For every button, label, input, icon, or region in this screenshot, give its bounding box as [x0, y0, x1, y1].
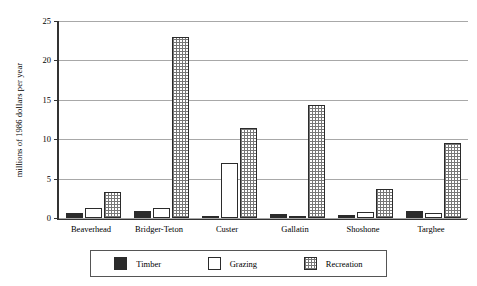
legend-swatch-grazing — [208, 257, 221, 270]
y-axis-tick-label: 5 — [47, 174, 51, 184]
legend-label: Recreation — [326, 259, 363, 269]
bar-recreation-targhee — [444, 143, 461, 218]
legend-label: Timber — [136, 259, 161, 269]
bar-grazing-shoshone — [357, 212, 374, 218]
bar-group — [195, 21, 263, 218]
y-axis-tick-label: 10 — [43, 134, 52, 144]
bar-grazing-custer — [221, 163, 238, 218]
bar-recreation-custer — [240, 128, 257, 218]
gridline — [59, 218, 468, 219]
legend-item-timber: Timber — [114, 257, 161, 270]
bar-timber-targhee — [406, 211, 423, 218]
bar-timber-bridger-teton — [134, 211, 151, 218]
chart-container: millions of 1986 dollars per year 051015… — [0, 0, 477, 286]
bar-group — [331, 21, 399, 218]
bar-recreation-beaverhead — [104, 192, 121, 218]
bar-recreation-gallatin — [308, 105, 325, 218]
bar-group — [263, 21, 331, 218]
bar-recreation-shoshone — [376, 189, 393, 218]
legend-label: Grazing — [230, 259, 257, 269]
bar-groups — [59, 21, 467, 218]
bar-group — [59, 21, 127, 218]
bar-grazing-targhee — [425, 213, 442, 218]
y-axis-tick-label: 25 — [43, 16, 52, 26]
bar-timber-custer — [202, 216, 219, 218]
bar-timber-shoshone — [338, 215, 355, 218]
bar-timber-gallatin — [270, 214, 287, 218]
y-axis-tick-label: 20 — [43, 55, 52, 65]
bar-group — [127, 21, 195, 218]
bar-recreation-bridger-teton — [172, 37, 189, 218]
chart-legend: TimberGrazingRecreation — [90, 250, 387, 277]
y-axis-tick — [54, 218, 59, 219]
y-axis-tick-label: 15 — [43, 95, 52, 105]
y-axis-tick-label: 0 — [47, 213, 51, 223]
legend-item-grazing: Grazing — [208, 257, 257, 270]
x-axis-labels: BeaverheadBridger-TetonCusterGallatinSho… — [57, 224, 465, 234]
bar-group — [399, 21, 467, 218]
x-axis-label: Bridger-Teton — [125, 224, 193, 234]
legend-item-recreation: Recreation — [304, 257, 363, 270]
x-axis-label: Gallatin — [261, 224, 329, 234]
x-axis-label: Beaverhead — [57, 224, 125, 234]
x-axis-label: Shoshone — [329, 224, 397, 234]
bar-grazing-bridger-teton — [153, 208, 170, 218]
legend-swatch-timber — [114, 257, 127, 270]
x-axis-label: Targhee — [397, 224, 465, 234]
plot-area: 0510152025 — [57, 21, 467, 220]
bar-grazing-gallatin — [289, 216, 306, 218]
bar-grazing-beaverhead — [85, 208, 102, 218]
y-axis-title: millions of 1986 dollars per year — [14, 40, 24, 200]
legend-swatch-recreation — [304, 257, 317, 270]
x-axis-label: Custer — [193, 224, 261, 234]
bar-timber-beaverhead — [66, 213, 83, 218]
